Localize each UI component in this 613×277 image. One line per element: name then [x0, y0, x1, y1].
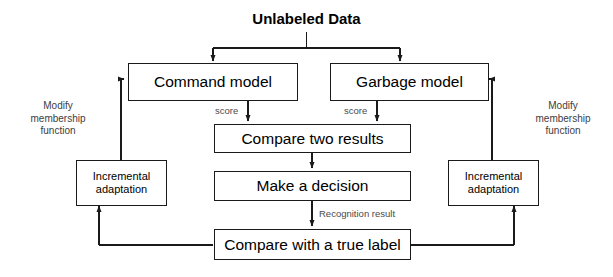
diagram-title: Unlabeled Data	[0, 10, 613, 27]
node-command-model[interactable]: Command model	[128, 63, 298, 101]
label-modify-membership-function-right: Modify membership function	[524, 100, 602, 138]
label-recognition-result: Recognition result	[319, 208, 395, 219]
node-incremental-adaptation-right-label: Incremental adaptation	[449, 170, 538, 195]
node-command-model-label: Command model	[129, 73, 297, 91]
node-compare-with-a-true-label[interactable]: Compare with a true label	[214, 229, 411, 260]
node-compare-with-a-true-label-label: Compare with a true label	[215, 236, 410, 254]
node-incremental-adaptation-left-label: Incremental adaptation	[77, 170, 166, 195]
node-incremental-adaptation-right[interactable]: Incremental adaptation	[448, 160, 539, 206]
node-compare-two-results-label: Compare two results	[215, 130, 410, 148]
node-garbage-model-label: Garbage model	[331, 73, 488, 91]
node-garbage-model[interactable]: Garbage model	[330, 63, 489, 101]
label-score-right: score	[344, 105, 367, 116]
flowchart-diagram: Unlabeled Data Command model Garbage mod…	[0, 0, 613, 277]
label-modify-membership-function-left: Modify membership function	[22, 100, 94, 138]
node-make-a-decision[interactable]: Make a decision	[214, 171, 411, 201]
node-incremental-adaptation-left[interactable]: Incremental adaptation	[76, 160, 167, 206]
node-compare-two-results[interactable]: Compare two results	[214, 124, 411, 153]
label-score-left: score	[215, 105, 238, 116]
node-make-a-decision-label: Make a decision	[215, 177, 410, 195]
